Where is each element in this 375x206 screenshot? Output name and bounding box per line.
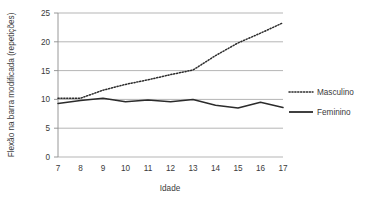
y-axis-title: Flexão na barra modificada (repetições) — [7, 12, 16, 157]
legend-label-feminino: Feminino — [317, 108, 351, 117]
x-axis-tick-label: 14 — [211, 164, 221, 173]
x-axis-tick-label: 15 — [233, 164, 243, 173]
y-axis-tick-label: 5 — [45, 124, 50, 133]
x-axis-tick-label: 11 — [144, 164, 153, 173]
x-axis-tick-label: 13 — [188, 164, 198, 173]
y-axis-tick-label: 20 — [41, 38, 51, 47]
y-axis-tick-label: 10 — [41, 95, 51, 104]
x-axis-tick-label: 16 — [256, 164, 266, 173]
x-axis-tick-label: 7 — [56, 164, 61, 173]
x-axis-tick-label: 8 — [78, 164, 83, 173]
x-axis-title: Idade — [160, 184, 181, 193]
chart-background — [0, 0, 375, 206]
legend-label-masculino: Masculino — [317, 88, 354, 97]
y-axis-tick-label: 25 — [41, 9, 51, 18]
x-axis-tick-label: 17 — [278, 164, 288, 173]
x-axis-tick-label: 10 — [121, 164, 131, 173]
y-axis-tick-label: 0 — [45, 153, 50, 162]
x-axis-tick-label: 12 — [166, 164, 176, 173]
y-axis-tick-label: 15 — [41, 67, 51, 76]
x-axis-tick-label: 9 — [101, 164, 106, 173]
chart-figure: 0510152025 7891011121314151617 Flexão na… — [0, 0, 375, 206]
line-chart: 0510152025 7891011121314151617 Flexão na… — [0, 0, 375, 206]
